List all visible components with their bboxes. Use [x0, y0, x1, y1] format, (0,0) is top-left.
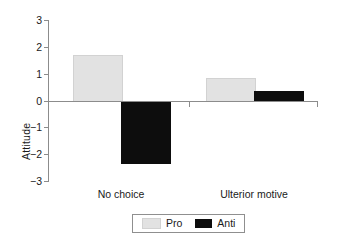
y-tick-3: [44, 20, 49, 21]
y-tick-label-1: 1: [36, 68, 42, 79]
y-tick-label-2: 2: [36, 42, 42, 53]
bar-no-choice-anti[interactable]: [121, 101, 171, 165]
x-category-label-ulterior-motive: Ulterior motive: [220, 188, 288, 200]
legend-label-pro: Pro: [166, 218, 182, 229]
attitude-bar-chart: Attitude 3 2 1 0 −1 −2 −3 No ch: [0, 0, 344, 247]
y-tick-label-minus-3: −3: [30, 176, 42, 187]
x-tick-separator: [189, 102, 190, 107]
y-tick-minus-3: [44, 181, 49, 182]
y-tick-label-minus-2: −2: [30, 149, 42, 160]
y-tick-2: [44, 47, 49, 48]
zero-baseline: [48, 101, 318, 103]
y-tick-label-minus-1: −1: [30, 122, 42, 133]
y-axis-label: Attitude: [14, 0, 38, 160]
legend-swatch-anti-icon: [195, 219, 212, 228]
plot-area: 3 2 1 0 −1 −2 −3 No choice Ulterior moti…: [48, 20, 318, 181]
y-tick-label-3: 3: [36, 15, 42, 26]
x-tick-right-end: [317, 102, 318, 107]
legend-item-anti[interactable]: Anti: [195, 218, 235, 229]
y-tick-label-0: 0: [36, 95, 42, 106]
y-tick-minus-2: [44, 154, 49, 155]
legend: Pro Anti: [132, 214, 245, 233]
x-category-label-no-choice: No choice: [98, 188, 145, 200]
bar-no-choice-pro[interactable]: [73, 55, 123, 103]
legend-item-pro[interactable]: Pro: [142, 218, 182, 229]
y-tick-minus-1: [44, 127, 49, 128]
bar-ulterior-motive-pro[interactable]: [206, 78, 256, 103]
y-tick-1: [44, 74, 49, 75]
legend-label-anti: Anti: [217, 218, 235, 229]
legend-swatch-pro-icon: [142, 218, 161, 229]
